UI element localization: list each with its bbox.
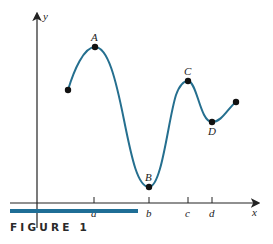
x-ticks: a b c d <box>91 197 215 219</box>
function-curve <box>68 47 236 187</box>
point-b <box>146 184 152 190</box>
start-point <box>65 87 71 93</box>
point-a <box>92 44 98 50</box>
critical-points: A B C D <box>65 31 239 190</box>
tick-label-d: d <box>209 207 215 219</box>
end-point <box>233 99 239 105</box>
function-graph: x y a b c d A B C D <box>0 0 273 244</box>
point-label-d: D <box>207 125 216 137</box>
x-axis-label: x <box>251 206 257 218</box>
point-label-a: A <box>90 31 98 43</box>
caption-accent-bar <box>10 209 138 213</box>
tick-label-c: c <box>185 207 190 219</box>
point-label-c: C <box>184 65 192 77</box>
y-axis-label: y <box>42 10 48 22</box>
point-label-b: B <box>145 171 152 183</box>
point-c <box>185 78 191 84</box>
tick-label-b: b <box>146 207 152 219</box>
figure-caption: FIGURE 1 <box>10 221 90 233</box>
